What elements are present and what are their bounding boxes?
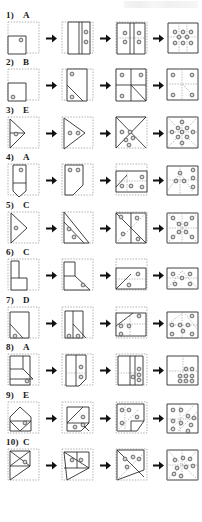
right-arrow-icon (45, 399, 57, 437)
right-arrow-icon (45, 209, 57, 247)
fold-step-panel (5, 399, 43, 437)
fold-step-panel (59, 161, 97, 199)
fold-sequence (0, 66, 202, 104)
fold-step-panel (113, 446, 151, 484)
fold-step-panel (164, 256, 202, 294)
right-arrow-icon (45, 161, 57, 199)
fold-step-panel (164, 114, 202, 152)
scan-watermark (124, 1, 198, 8)
right-arrow-icon (152, 446, 164, 484)
fold-step-panel (59, 114, 97, 152)
right-arrow-icon (152, 304, 164, 342)
puzzle-row: 7)D (0, 295, 202, 342)
fold-step-panel (164, 351, 202, 389)
right-arrow-icon (45, 256, 57, 294)
fold-sequence (0, 399, 202, 437)
fold-step-panel (113, 304, 151, 342)
fold-step-panel (5, 19, 43, 57)
puzzle-row: 3)E (0, 105, 202, 152)
fold-step-panel (164, 66, 202, 104)
puzzle-row: 2)B (0, 57, 202, 104)
fold-step-panel (113, 161, 151, 199)
puzzle-row: 9)E (0, 390, 202, 437)
fold-step-panel (59, 446, 97, 484)
right-arrow-icon (152, 19, 164, 57)
fold-step-panel (113, 209, 151, 247)
puzzle-row: 4)A (0, 152, 202, 199)
fold-step-panel (113, 256, 151, 294)
right-arrow-icon (152, 351, 164, 389)
puzzle-row: 8)A (0, 342, 202, 389)
fold-step-panel (59, 399, 97, 437)
fold-sequence (0, 161, 202, 199)
right-arrow-icon (99, 256, 111, 294)
fold-step-panel (5, 351, 43, 389)
fold-step-panel (5, 114, 43, 152)
fold-step-panel (5, 66, 43, 104)
right-arrow-icon (152, 161, 164, 199)
fold-step-panel (113, 19, 151, 57)
right-arrow-icon (152, 114, 164, 152)
fold-step-panel (164, 161, 202, 199)
right-arrow-icon (99, 351, 111, 389)
puzzle-row: 10)C (0, 437, 202, 484)
fold-sequence (0, 304, 202, 342)
puzzle-row: 1)A (0, 10, 202, 57)
right-arrow-icon (99, 161, 111, 199)
fold-sequence (0, 256, 202, 294)
right-arrow-icon (99, 304, 111, 342)
fold-step-panel (164, 399, 202, 437)
right-arrow-icon (45, 114, 57, 152)
fold-step-panel (164, 19, 202, 57)
right-arrow-icon (99, 399, 111, 437)
right-arrow-icon (99, 209, 111, 247)
fold-step-panel (5, 256, 43, 294)
right-arrow-icon (45, 446, 57, 484)
fold-step-panel (113, 399, 151, 437)
fold-step-panel (5, 209, 43, 247)
right-arrow-icon (99, 66, 111, 104)
right-arrow-icon (152, 209, 164, 247)
fold-step-panel (113, 66, 151, 104)
right-arrow-icon (45, 304, 57, 342)
fold-step-panel (59, 209, 97, 247)
fold-step-panel (59, 304, 97, 342)
right-arrow-icon (45, 19, 57, 57)
fold-sequence (0, 209, 202, 247)
fold-step-panel (164, 209, 202, 247)
puzzle-row: 6)C (0, 247, 202, 294)
fold-sequence (0, 114, 202, 152)
fold-step-panel (59, 256, 97, 294)
fold-step-panel (5, 161, 43, 199)
fold-step-panel (164, 304, 202, 342)
fold-step-panel (164, 446, 202, 484)
fold-sequence (0, 19, 202, 57)
right-arrow-icon (152, 66, 164, 104)
fold-step-panel (59, 19, 97, 57)
puzzle-row: 5)C (0, 200, 202, 247)
right-arrow-icon (99, 19, 111, 57)
fold-step-panel (59, 351, 97, 389)
right-arrow-icon (99, 446, 111, 484)
fold-sequence (0, 446, 202, 484)
fold-step-panel (59, 66, 97, 104)
right-arrow-icon (152, 256, 164, 294)
fold-step-panel (5, 446, 43, 484)
fold-sequence (0, 351, 202, 389)
fold-step-panel (5, 304, 43, 342)
right-arrow-icon (152, 399, 164, 437)
right-arrow-icon (99, 114, 111, 152)
right-arrow-icon (45, 351, 57, 389)
right-arrow-icon (45, 66, 57, 104)
fold-step-panel (113, 351, 151, 389)
worksheet-page: 1)A2)B3)E4)A5)C6)C7)D8)A9)E10)C (0, 0, 202, 522)
fold-step-panel (113, 114, 151, 152)
